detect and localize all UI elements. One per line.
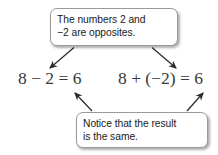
opposites-equation-figure: The numbers 2 and −2 are opposites. 8 − …	[0, 0, 218, 155]
arrow-bottom-to-left-result	[75, 93, 92, 111]
callout-opposites-line-1: The numbers 2 and	[57, 13, 171, 26]
callout-same-result-line-1: Notice that the result	[83, 117, 201, 130]
callout-opposites: The numbers 2 and −2 are opposites.	[50, 8, 178, 46]
callout-same-result: Notice that the result is the same.	[76, 112, 208, 148]
equation-subtraction: 8 − 2 = 6	[18, 68, 82, 88]
arrow-top-to-left-equation	[50, 48, 74, 69]
equation-addition: 8 + (−2) = 6	[118, 68, 203, 88]
callout-same-result-line-2: is the same.	[83, 130, 201, 143]
arrow-top-to-right-equation	[152, 48, 176, 69]
arrow-bottom-to-right-result	[187, 93, 203, 111]
callout-opposites-line-2: −2 are opposites.	[57, 26, 171, 39]
